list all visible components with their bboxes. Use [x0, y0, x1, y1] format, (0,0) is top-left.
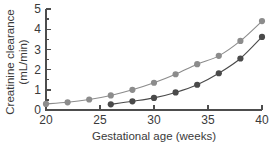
x-tick-label-40: 40 [255, 113, 269, 127]
x-tick-label-30: 30 [147, 113, 161, 127]
series-line-upper-curve [46, 21, 262, 104]
data-point-lower-curve-30 [151, 95, 157, 101]
x-axis-ticks: 2025303540 [39, 105, 269, 127]
data-point-lower-curve-36 [216, 70, 222, 76]
y-tick-label-1: 1 [34, 83, 41, 97]
data-point-upper-curve-32 [173, 71, 179, 77]
x-axis-title: Gestational age (weeks) [92, 130, 216, 142]
data-point-lower-curve-40 [259, 34, 265, 40]
data-point-lower-curve-38 [237, 55, 243, 61]
y-tick-label-2: 2 [34, 63, 41, 77]
data-point-lower-curve-32 [173, 89, 179, 95]
data-point-upper-curve-22 [65, 99, 71, 105]
x-tick-label-35: 35 [201, 113, 215, 127]
x-tick-label-25: 25 [93, 113, 107, 127]
x-tick-label-20: 20 [39, 113, 53, 127]
y-tick-label-3: 3 [34, 43, 41, 57]
data-point-upper-curve-24 [86, 96, 92, 102]
data-point-lower-curve-34 [194, 82, 200, 88]
y-axis-title-line2: (mL/min) [17, 39, 29, 85]
data-point-upper-curve-36 [216, 53, 222, 59]
y-tick-label-5: 5 [34, 2, 41, 16]
chart-canvas: 0123452025303540Creatinine clearance(mL/… [0, 0, 277, 146]
data-point-upper-curve-20 [43, 101, 49, 107]
chart-figure: 0123452025303540Creatinine clearance(mL/… [0, 0, 277, 146]
y-tick-label-4: 4 [34, 22, 41, 36]
series-line-lower-curve [111, 37, 262, 104]
y-axis-title-line1: Creatinine clearance [4, 9, 16, 114]
y-axis-ticks: 012345 [34, 2, 51, 117]
data-point-upper-curve-40 [259, 18, 265, 24]
data-point-upper-curve-38 [237, 38, 243, 44]
data-point-upper-curve-34 [194, 61, 200, 67]
data-point-upper-curve-26 [108, 92, 114, 98]
data-point-lower-curve-28 [129, 98, 135, 104]
y-axis-title: Creatinine clearance(mL/min) [4, 9, 29, 114]
data-point-upper-curve-30 [151, 80, 157, 86]
data-point-upper-curve-28 [129, 87, 135, 93]
data-point-lower-curve-26 [108, 101, 114, 107]
series-upper-curve [43, 18, 265, 107]
series-lower-curve [108, 34, 265, 108]
